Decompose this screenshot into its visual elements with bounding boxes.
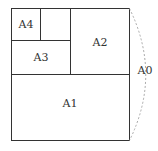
label-a3: A3: [33, 51, 49, 64]
label-a2: A2: [92, 36, 108, 49]
paper-size-diagram: A4 A3 A2 A1 A0: [0, 0, 158, 151]
label-a1: A1: [62, 97, 78, 110]
label-a4: A4: [18, 18, 34, 31]
label-a0: A0: [137, 64, 153, 77]
